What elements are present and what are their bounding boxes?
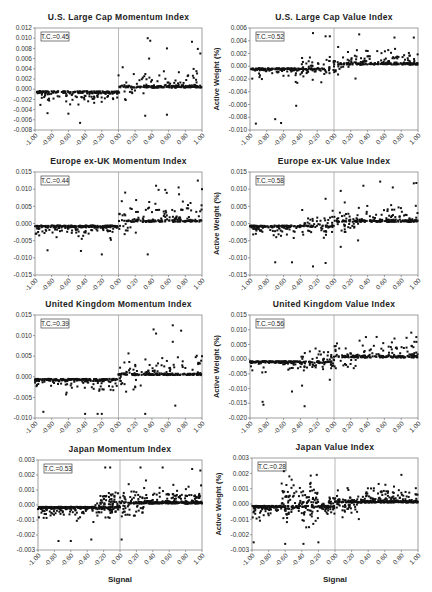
- y-tick-label: 0.002: [231, 50, 248, 57]
- chart-title: Japan Value Index: [296, 442, 375, 452]
- y-tick-label: -0.008: [229, 113, 248, 120]
- x-tick-label: -0.60: [272, 419, 288, 435]
- y-tick-label: 0.012: [16, 24, 33, 31]
- y-tick-label: 0.010: [16, 332, 33, 339]
- x-tick-label: 0.60: [374, 419, 388, 433]
- x-tick-label: -0.60: [272, 276, 288, 292]
- x-tick-label: -0.60: [57, 131, 73, 147]
- chart-title: Europe ex-UK Value Index: [278, 156, 391, 166]
- x-tick-label: 0.40: [357, 419, 371, 433]
- y-tick-label: 0.005: [231, 341, 248, 348]
- x-tick-label: -0.60: [57, 419, 73, 435]
- x-tick-label: -1.00: [238, 419, 254, 435]
- chart-title: U.S. Large Cap Value Index: [275, 12, 392, 22]
- x-tick-label: -0.80: [255, 131, 271, 147]
- y-tick-label: 0.010: [231, 326, 248, 333]
- x-tick-label: 0.20: [125, 276, 139, 290]
- y-tick-label: -0.015: [229, 399, 248, 406]
- x-tick-label: 0.80: [391, 276, 405, 290]
- x-tick-label: 0.80: [391, 131, 405, 145]
- x-tick-label: 0.80: [175, 276, 189, 290]
- x-tick-label: 0.80: [175, 419, 189, 433]
- svg-text:T.C.=0.45: T.C.=0.45: [41, 33, 69, 40]
- x-tick-label: 0.40: [143, 551, 157, 565]
- y-tick-label: -0.004: [229, 88, 248, 95]
- y-tick-label: 0.002: [19, 471, 36, 478]
- x-tick-label: 0.60: [159, 551, 173, 565]
- x-tick-label: 0.80: [175, 551, 189, 565]
- svg-text:T.C.=0.53: T.C.=0.53: [44, 465, 72, 472]
- y-tick-label: 0.004: [16, 65, 33, 72]
- tc-annotation: T.C.=0.44: [41, 176, 69, 185]
- x-tick-label: -0.40: [289, 419, 305, 435]
- y-tick-label: 0.006: [16, 55, 33, 62]
- x-tick-label: 0.00: [108, 276, 122, 290]
- x-axis-label: Signal: [323, 575, 347, 584]
- x-tick-label: -1.00: [240, 551, 256, 567]
- y-tick-label: 0.004: [231, 37, 248, 44]
- svg-text:T.C.=0.44: T.C.=0.44: [41, 177, 69, 184]
- y-tick-label: -0.004: [14, 106, 33, 113]
- x-tick-label: -0.60: [272, 131, 288, 147]
- y-tick-label: -0.010: [14, 414, 33, 421]
- x-tick-label: 1.00: [408, 131, 422, 145]
- x-tick-label: -0.40: [73, 276, 89, 292]
- x-tick-label: -0.40: [75, 551, 91, 567]
- x-tick-label: -0.20: [90, 276, 106, 292]
- x-tick-label: -0.60: [273, 551, 289, 567]
- y-tick-label: -0.002: [231, 531, 250, 538]
- y-axis-label: Active Weight (%): [212, 47, 221, 111]
- y-tick-label: 0.001: [233, 485, 250, 492]
- y-tick-label: -0.006: [229, 101, 248, 108]
- x-tick-label: 0.20: [126, 551, 140, 565]
- y-tick-label: -0.005: [229, 370, 248, 377]
- x-tick-label: -0.20: [305, 131, 321, 147]
- x-tick-label: 0.20: [125, 419, 139, 433]
- y-tick-label: 0.015: [231, 311, 248, 318]
- svg-text:T.C.=0.56: T.C.=0.56: [256, 320, 284, 327]
- chart-panel-1: U.S. Large Cap Value Index0.0060.0040.00…: [212, 12, 422, 147]
- y-tick-label: 0.000: [231, 220, 248, 227]
- y-tick-label: 0.008: [16, 45, 33, 52]
- chart-panel-6: Japan Momentum Index0.0030.0020.0010.000…: [17, 444, 206, 584]
- x-tick-label: 1.00: [192, 131, 206, 145]
- x-tick-label: -1.00: [238, 276, 254, 292]
- chart-title: U.S. Large Cap Momentum Index: [48, 12, 189, 22]
- y-tick-label: -0.001: [17, 516, 36, 523]
- y-tick-label: -0.015: [229, 271, 248, 278]
- x-tick-label: -0.80: [40, 276, 56, 292]
- x-tick-label: -0.20: [305, 276, 321, 292]
- x-tick-label: -0.40: [289, 131, 305, 147]
- x-tick-label: -0.20: [307, 551, 323, 567]
- y-axis-label: Active Weight (%): [212, 334, 221, 398]
- x-tick-label: 0.40: [142, 276, 156, 290]
- y-tick-label: 0.000: [231, 62, 248, 69]
- x-tick-label: 0.80: [391, 551, 405, 565]
- y-axis-label: Active Weight (%): [214, 472, 223, 536]
- x-tick-label: -1.00: [26, 551, 42, 567]
- y-tick-label: -0.005: [14, 237, 33, 244]
- y-tick-label: 0.005: [16, 352, 33, 359]
- chart-title: Japan Momentum Index: [69, 444, 172, 454]
- x-tick-label: 0.80: [391, 419, 405, 433]
- x-tick-label: 0.00: [324, 131, 338, 145]
- x-tick-label: 0.20: [341, 419, 355, 433]
- y-tick-label: 0.001: [19, 486, 36, 493]
- x-tick-label: -1.00: [23, 276, 39, 292]
- chart-canvas: U.S. Large Cap Momentum Index0.0120.0100…: [0, 0, 432, 592]
- x-tick-label: 0.60: [158, 276, 172, 290]
- y-tick-label: -0.002: [17, 531, 36, 538]
- x-tick-label: 0.60: [158, 419, 172, 433]
- y-tick-label: 0.003: [19, 456, 36, 463]
- y-tick-label: -0.010: [229, 385, 248, 392]
- svg-text:T.C.=0.58: T.C.=0.58: [256, 177, 284, 184]
- x-tick-label: -0.80: [43, 551, 59, 567]
- y-tick-label: 0.005: [231, 203, 248, 210]
- x-tick-label: 0.00: [324, 276, 338, 290]
- x-axis-label: Signal: [108, 575, 132, 584]
- x-tick-label: 0.60: [374, 276, 388, 290]
- svg-text:T.C.=0.52: T.C.=0.52: [256, 33, 284, 40]
- x-tick-label: 1.00: [408, 276, 422, 290]
- x-tick-label: 0.40: [142, 131, 156, 145]
- y-tick-label: -0.010: [229, 254, 248, 261]
